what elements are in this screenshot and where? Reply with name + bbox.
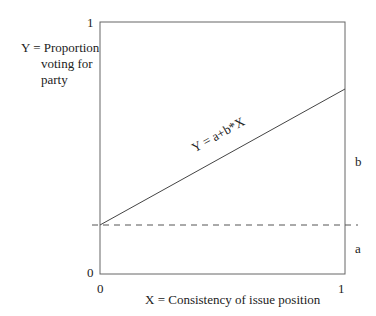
plot-frame — [100, 22, 345, 274]
x-tick-0: 0 — [97, 281, 104, 296]
slope-label-b: b — [355, 154, 362, 169]
y-axis-label-line2: voting for — [41, 56, 93, 71]
regression-line — [100, 89, 345, 225]
y-axis-label-line1: Y = Proportion — [21, 40, 99, 55]
y-tick-0: 0 — [87, 265, 94, 280]
x-tick-1: 1 — [338, 281, 345, 296]
intercept-label-a: a — [355, 241, 361, 256]
x-axis-label: X = Consistency of issue position — [145, 292, 320, 307]
y-axis-label-line3: party — [41, 72, 68, 87]
y-tick-1: 1 — [87, 15, 94, 30]
